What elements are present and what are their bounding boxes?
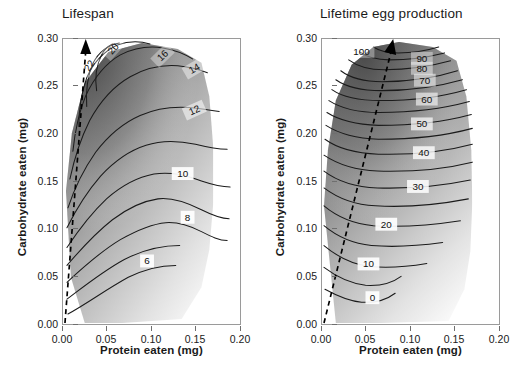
y-tick-label: 0.25 [24, 80, 58, 90]
svg-text:30: 30 [412, 181, 423, 192]
x-axis-label-lifetime-egg-production: Protein eaten (mg) [321, 344, 500, 356]
svg-text:6: 6 [144, 255, 150, 266]
plot-area-lifetime-egg-production: 0 10 20 30 4 [321, 38, 500, 325]
y-tick-label: 0.25 [283, 80, 317, 90]
x-tick-mark [321, 326, 322, 331]
y-tick-label: 0.30 [283, 33, 317, 43]
y-tick-label: 0.30 [24, 33, 58, 43]
y-tick-mark [73, 85, 78, 86]
panel-title-lifespan: Lifespan [62, 6, 114, 21]
y-tick-mark [332, 133, 337, 134]
y-tick-label: 0.20 [24, 128, 58, 138]
svg-text:0: 0 [370, 292, 376, 303]
y-tick-mark [332, 228, 337, 229]
y-tick-label: 0.15 [283, 176, 317, 186]
x-tick-mark [365, 326, 366, 331]
y-tick-mark [73, 324, 78, 325]
svg-text:20: 20 [381, 219, 392, 230]
y-tick-mark [332, 324, 337, 325]
y-tick-mark [73, 228, 78, 229]
svg-text:90: 90 [416, 53, 427, 64]
caption-partial-text [0, 360, 518, 371]
contour-plot-lifetime-egg-production: 0 10 20 30 4 [322, 39, 499, 324]
y-tick-label: 0.20 [283, 128, 317, 138]
svg-text:70: 70 [419, 75, 430, 86]
y-tick-mark [73, 133, 78, 134]
x-tick-mark [62, 326, 63, 331]
y-axis-label-lifetime-egg-production: Carbohydrate eaten (mg) [274, 102, 286, 272]
y-tick-mark [332, 181, 337, 182]
plot-area-lifespan: 6 8 10 12 [62, 38, 241, 325]
y-tick-mark [73, 276, 78, 277]
y-tick-mark [73, 181, 78, 182]
y-tick-label: 0.10 [24, 223, 58, 233]
svg-text:8: 8 [185, 212, 191, 223]
y-tick-label: 0.00 [283, 319, 317, 329]
panel-title-lifetime-egg-production: Lifetime egg production [320, 6, 463, 21]
panel-lifespan: Lifespan [0, 0, 259, 371]
x-tick-mark [410, 326, 411, 331]
svg-text:10: 10 [363, 258, 374, 269]
figure-root: Lifespan [0, 0, 518, 371]
svg-text:40: 40 [418, 147, 429, 158]
y-tick-mark [332, 276, 337, 277]
y-axis-label-lifespan: Carbohydrate eaten (mg) [16, 102, 28, 272]
svg-text:60: 60 [421, 94, 432, 105]
y-tick-mark [332, 38, 337, 39]
x-tick-mark [195, 326, 196, 331]
y-tick-label: 0.00 [24, 319, 58, 329]
x-tick-mark [106, 326, 107, 331]
y-tick-mark [332, 85, 337, 86]
y-tick-label: 0.05 [24, 271, 58, 281]
svg-text:100: 100 [353, 46, 370, 57]
surface-shading-lifespan [63, 39, 240, 324]
svg-text:10: 10 [177, 168, 188, 179]
contour-plot-lifespan: 6 8 10 12 [63, 39, 240, 324]
x-tick-mark [499, 326, 500, 331]
y-tick-label: 0.15 [24, 176, 58, 186]
x-axis-label-lifespan: Protein eaten (mg) [62, 344, 241, 356]
y-tick-label: 0.10 [283, 223, 317, 233]
x-tick-mark [151, 326, 152, 331]
panel-lifetime-egg-production: Lifetime egg production [259, 0, 518, 371]
x-tick-mark [454, 326, 455, 331]
y-tick-mark [73, 38, 78, 39]
y-tick-label: 0.05 [283, 271, 317, 281]
svg-text:50: 50 [416, 118, 427, 129]
x-tick-mark [240, 326, 241, 331]
